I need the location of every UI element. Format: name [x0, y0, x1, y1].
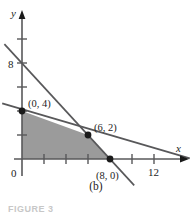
origin-label: 0	[11, 167, 17, 179]
point-label-0-4: (0, 4)	[28, 98, 51, 110]
vertex-point-8-0	[107, 156, 114, 163]
x-axis-label: x	[175, 142, 181, 154]
point-label-6-2: (6, 2)	[94, 122, 117, 134]
y-axis-label: y	[10, 7, 16, 19]
y-axis-arrowhead	[19, 10, 26, 19]
vertex-point-0-4	[19, 108, 26, 115]
feasible-region-shaded	[22, 111, 110, 159]
figure-caption-partial: FIGURE 3	[8, 204, 128, 214]
panel-label: (b)	[0, 180, 192, 192]
y-tick-label-8: 8	[8, 58, 14, 70]
x-tick-label-12: 12	[148, 166, 159, 178]
figure-panel-b: y x 8 12 0 (0, 4) (6, 2) (8, 0) (b) FIGU…	[0, 0, 192, 214]
vertex-point-6-2	[85, 132, 92, 139]
